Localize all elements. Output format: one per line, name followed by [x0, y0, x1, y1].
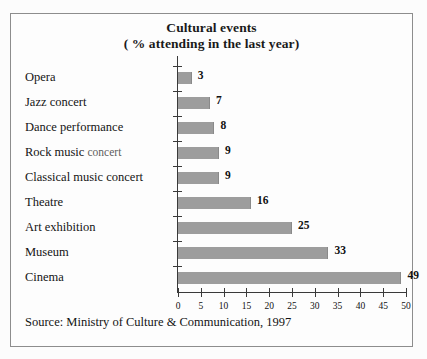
value-tick: [383, 288, 384, 297]
category-label: Museum: [25, 245, 175, 259]
value-tick: [406, 288, 407, 297]
category-label: Classical music concert: [25, 170, 175, 184]
bar-row: 25: [178, 216, 406, 241]
value-tick-label: 10: [219, 301, 229, 311]
bar-value-label: 9: [225, 144, 231, 156]
bar: [178, 172, 219, 184]
bar-row: 3: [178, 66, 406, 91]
value-tick: [224, 288, 225, 297]
bar: [178, 122, 214, 134]
category-axis: OperaJazz concertDance performanceRock m…: [19, 64, 167, 292]
bar-value-label: 9: [225, 169, 231, 181]
bar-row: 9: [178, 166, 406, 191]
bars-region: 3789916253349: [177, 64, 405, 292]
value-tick: [269, 288, 270, 297]
category-label: Art exhibition: [25, 220, 175, 234]
bar: [178, 97, 210, 109]
scanned-page: Cultural events ( % attending in the las…: [0, 0, 427, 359]
bar-row: 9: [178, 141, 406, 166]
bar: [178, 222, 292, 234]
value-tick-label: 20: [264, 301, 274, 311]
bar: [178, 247, 328, 259]
value-tick-label: 25: [287, 301, 297, 311]
value-tick-label: 30: [310, 301, 320, 311]
value-tick: [246, 288, 247, 297]
value-tick: [315, 288, 316, 297]
value-tick-label: 35: [333, 301, 343, 311]
bar: [178, 72, 192, 84]
bar: [178, 272, 401, 284]
value-tick-label: 40: [356, 301, 366, 311]
bar-value-label: 7: [216, 94, 222, 106]
category-label: Rock music concert: [25, 145, 175, 159]
chart-title-line-2: ( % attending in the last year): [11, 36, 412, 52]
bar: [178, 147, 219, 159]
chart-figure-frame: Cultural events ( % attending in the las…: [10, 13, 413, 347]
value-tick: [178, 288, 179, 297]
value-tick-label: 5: [198, 301, 203, 311]
bar-row: 8: [178, 116, 406, 141]
source-note: Source: Ministry of Culture & Communicat…: [25, 315, 291, 330]
bar-value-label: 49: [407, 269, 419, 281]
value-tick: [201, 288, 202, 297]
bar-value-label: 16: [257, 194, 269, 206]
category-label: Theatre: [25, 195, 175, 209]
bar-row: 16: [178, 191, 406, 216]
value-tick-label: 45: [378, 301, 388, 311]
bar-value-label: 33: [334, 244, 346, 256]
bar-row: 7: [178, 91, 406, 116]
value-tick-label: 50: [401, 301, 411, 311]
value-tick: [338, 288, 339, 297]
bar: [178, 197, 251, 209]
bar-value-label: 8: [220, 119, 226, 131]
value-tick: [360, 288, 361, 297]
bar-value-label: 3: [198, 69, 204, 81]
value-tick-label: 0: [176, 301, 181, 311]
plot-area: OperaJazz concertDance performanceRock m…: [19, 64, 405, 309]
value-tick-label: 15: [242, 301, 252, 311]
bar-value-label: 25: [298, 219, 310, 231]
bar-row: 33: [178, 241, 406, 266]
category-label: Dance performance: [25, 120, 175, 134]
category-label: Opera: [25, 70, 175, 84]
value-tick: [292, 288, 293, 297]
category-label: Jazz concert: [25, 95, 175, 109]
category-label: Cinema: [25, 270, 175, 284]
chart-title-line-1: Cultural events: [166, 20, 256, 35]
chart-title: Cultural events ( % attending in the las…: [11, 20, 412, 52]
